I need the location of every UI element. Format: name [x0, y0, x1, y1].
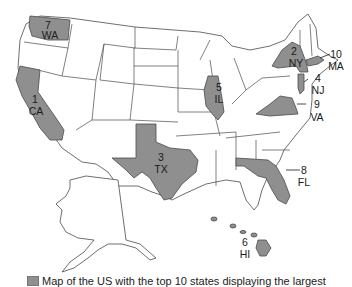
svg-text:WA: WA — [42, 29, 59, 41]
legend: Map of the US with the top 10 states dis… — [27, 275, 326, 287]
rank-ny: 2 — [291, 45, 297, 57]
rank-ca: 1 — [32, 93, 38, 105]
svg-text:8: 8 — [301, 164, 307, 176]
abbr-fl: FL — [298, 176, 310, 188]
legend-text: Map of the US with the top 10 states dis… — [42, 275, 326, 287]
state-ak — [56, 176, 156, 272]
rank-fl: 8 — [301, 164, 307, 176]
legend-swatch — [27, 276, 39, 286]
svg-text:5: 5 — [216, 81, 222, 93]
svg-text:IL: IL — [215, 93, 224, 105]
svg-text:NY: NY — [289, 57, 304, 69]
abbr-tx: TX — [154, 163, 167, 175]
svg-text:CA: CA — [29, 105, 44, 117]
us-map: 7 WA 1 CA 3 TX 5 IL 2 NY 10 MA 4 NJ 9 VA… — [0, 0, 352, 287]
svg-text:10: 10 — [330, 48, 342, 60]
svg-text:1: 1 — [32, 93, 38, 105]
abbr-ny: NY — [289, 57, 304, 69]
abbr-va: VA — [310, 111, 323, 123]
svg-text:4: 4 — [315, 72, 321, 84]
svg-text:FL: FL — [298, 176, 310, 188]
svg-text:HI: HI — [240, 248, 251, 260]
svg-text:2: 2 — [291, 45, 297, 57]
rank-il: 5 — [216, 81, 222, 93]
abbr-il: IL — [215, 93, 224, 105]
rank-ma: 10 — [330, 48, 342, 60]
abbr-nj: NJ — [312, 84, 325, 96]
rank-hi: 6 — [242, 236, 248, 248]
abbr-ma: MA — [328, 60, 344, 72]
svg-text:NJ: NJ — [312, 84, 325, 96]
svg-text:3: 3 — [158, 151, 164, 163]
svg-text:VA: VA — [310, 111, 323, 123]
svg-text:MA: MA — [328, 60, 344, 72]
svg-text:6: 6 — [242, 236, 248, 248]
svg-text:9: 9 — [314, 98, 320, 110]
svg-text:TX: TX — [154, 163, 167, 175]
rank-va: 9 — [314, 98, 320, 110]
abbr-hi: HI — [240, 248, 251, 260]
rank-tx: 3 — [158, 151, 164, 163]
abbr-ca: CA — [29, 105, 44, 117]
abbr-wa: WA — [42, 29, 59, 41]
state-nj — [298, 74, 304, 94]
rank-nj: 4 — [315, 72, 321, 84]
